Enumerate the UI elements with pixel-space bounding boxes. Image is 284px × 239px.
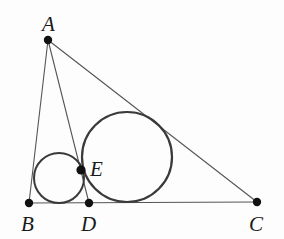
point-A [44,36,52,44]
label-D: D [80,212,96,236]
point-C [253,198,261,206]
label-A: A [40,12,55,36]
geometry-figure: A B C D E [0,0,284,239]
label-E: E [89,157,103,181]
circles-group [34,112,172,203]
point-E [76,165,85,174]
segments-group [29,40,257,203]
point-D [85,199,93,207]
segment-AB [29,40,48,203]
label-B: B [21,212,34,236]
geometry-canvas: A B C D E [0,0,284,239]
point-B [25,199,33,207]
segment-AD [48,40,89,203]
small-circle [34,153,84,203]
label-C: C [249,212,264,236]
points-group [25,36,261,207]
